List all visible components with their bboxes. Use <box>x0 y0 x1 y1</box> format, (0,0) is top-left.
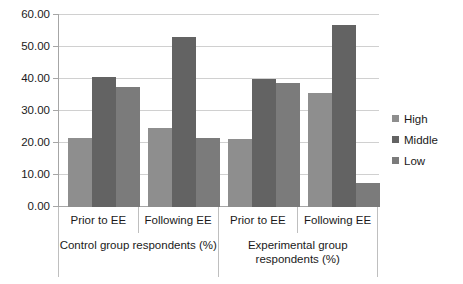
bar-middle[interactable] <box>332 25 356 207</box>
group-label-experimental: Experimental group respondents (%) <box>219 233 378 277</box>
category-label-prior-experimental: Prior to EE <box>219 207 299 233</box>
group-row: Control group respondents (%) Experiment… <box>59 233 377 277</box>
legend-item-high[interactable]: High <box>392 108 462 129</box>
x-axis-label-table: Prior to EE Following EE Prior to EE Fol… <box>58 207 378 277</box>
bar-middle[interactable] <box>92 77 116 207</box>
y-tick-label: 60.00 <box>0 9 50 20</box>
legend-item-low[interactable]: Low <box>392 150 462 171</box>
bar-low[interactable] <box>116 87 140 207</box>
group-label-control-line1: Control group respondents (%) <box>60 238 217 252</box>
bar-high[interactable] <box>148 128 172 207</box>
legend-swatch-icon <box>392 136 399 143</box>
bar-low[interactable] <box>356 183 380 207</box>
legend-swatch-icon <box>392 115 399 122</box>
bar-middle[interactable] <box>172 37 196 207</box>
y-tick-label: 20.00 <box>0 137 50 148</box>
category-row: Prior to EE Following EE Prior to EE Fol… <box>59 207 377 233</box>
category-label-following-control: Following EE <box>139 207 219 233</box>
legend-item-middle[interactable]: Middle <box>392 129 462 150</box>
group-label-experimental-line2: respondents (%) <box>248 252 348 266</box>
category-label-following-experimental: Following EE <box>298 207 377 233</box>
bar-high[interactable] <box>228 139 252 207</box>
bar-high[interactable] <box>308 93 332 207</box>
y-tick-label: 10.00 <box>0 169 50 180</box>
y-tick-label: 30.00 <box>0 105 50 116</box>
bar-middle[interactable] <box>252 79 276 207</box>
legend-label-middle: Middle <box>404 134 438 146</box>
legend-label-high: High <box>404 113 428 125</box>
y-tick-label: 50.00 <box>0 41 50 52</box>
bar-low[interactable] <box>276 83 300 207</box>
bar-high[interactable] <box>68 138 92 207</box>
legend-swatch-icon <box>392 157 399 164</box>
bar-chart: 60.00 50.00 40.00 30.00 20.00 10.00 0.00 <box>0 0 463 284</box>
legend: High Middle Low <box>392 108 462 171</box>
legend-label-low: Low <box>404 155 425 167</box>
bar-low[interactable] <box>196 138 220 207</box>
y-tick-label: 0.00 <box>0 201 50 212</box>
category-label-prior-control: Prior to EE <box>59 207 139 233</box>
bars-layer <box>58 14 378 207</box>
group-label-control: Control group respondents (%) <box>59 233 219 277</box>
group-label-experimental-line1: Experimental group <box>248 238 348 252</box>
y-tick-label: 40.00 <box>0 73 50 84</box>
